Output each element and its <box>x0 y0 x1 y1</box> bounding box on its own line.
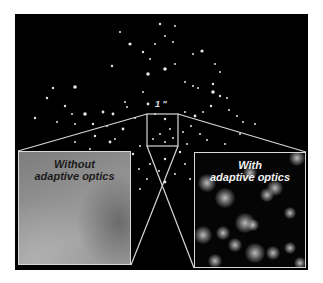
zoom-box <box>147 114 178 146</box>
callout-line-top-right <box>178 114 306 152</box>
astronomy-figure: Without adaptive optics With adaptive op… <box>15 14 308 270</box>
callout-line-top-left <box>18 114 147 151</box>
zoom-callout-lines <box>15 14 308 270</box>
scale-label: 1 " <box>155 99 167 109</box>
